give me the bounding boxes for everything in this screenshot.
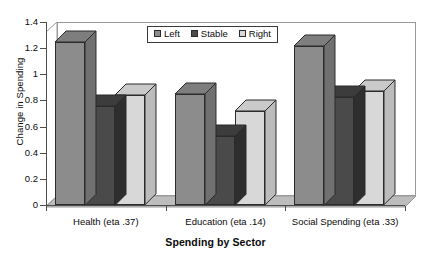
bar-top-face — [235, 100, 276, 111]
legend-item-right: Right — [239, 29, 271, 39]
y-tick-label: 0 — [4, 199, 38, 210]
x-axis-title: Spending by Sector — [0, 236, 431, 248]
y-tick — [40, 179, 47, 180]
bar-chart: Change in Spending 00.20.40.60.811.21.4 … — [0, 0, 431, 260]
legend-swatch-right — [239, 30, 246, 37]
bar-side-face — [384, 80, 395, 205]
legend: Left Stable Right — [147, 26, 278, 43]
bar-side-face — [85, 31, 96, 205]
x-tick — [46, 206, 47, 211]
x-category-label: Health (eta .37) — [73, 216, 138, 227]
y-tick-label: 1.4 — [4, 16, 38, 27]
bar — [55, 31, 85, 205]
bar-top-face — [294, 35, 335, 46]
bar-side-face — [205, 83, 216, 205]
bar-top-face — [115, 84, 156, 95]
legend-swatch-stable — [191, 30, 198, 37]
bar-side-face — [235, 125, 246, 205]
bar-front-face — [294, 46, 324, 205]
x-category-label: Social Spending (eta .33) — [292, 216, 399, 227]
y-tick-label: 0.8 — [4, 94, 38, 105]
x-tick — [285, 206, 286, 211]
bar-top-face — [175, 83, 216, 94]
legend-item-stable: Stable — [191, 29, 228, 39]
bar-side-face — [354, 86, 365, 205]
bar-top-face — [55, 31, 96, 42]
y-axis-labels: 00.20.40.60.811.21.4 — [0, 0, 38, 260]
y-tick — [40, 127, 47, 128]
y-tick — [40, 48, 47, 49]
legend-label-stable: Stable — [201, 29, 228, 39]
y-tick — [40, 153, 47, 154]
bar-side-face — [145, 84, 156, 205]
legend-label-left: Left — [164, 29, 180, 39]
bar-front-face — [175, 94, 205, 205]
y-tick-label: 1 — [4, 68, 38, 79]
bar — [175, 83, 205, 205]
x-tick — [166, 206, 167, 211]
legend-label-right: Right — [249, 29, 271, 39]
bar-front-face — [55, 42, 85, 205]
y-tick-label: 1.2 — [4, 42, 38, 53]
x-axis-line — [46, 205, 405, 206]
bar — [294, 35, 324, 205]
y-tick-label: 0.4 — [4, 147, 38, 158]
y-tick — [40, 100, 47, 101]
bar-side-face — [115, 95, 126, 205]
x-category-label: Education (eta .14) — [185, 216, 265, 227]
legend-item-left: Left — [154, 29, 180, 39]
y-tick-label: 0.6 — [4, 121, 38, 132]
x-tick — [405, 206, 406, 211]
bar-side-face — [265, 100, 276, 205]
y-tick — [40, 22, 47, 23]
y-tick-label: 0.2 — [4, 173, 38, 184]
legend-swatch-left — [154, 30, 161, 37]
y-tick — [40, 74, 47, 75]
bar-side-face — [324, 35, 335, 205]
